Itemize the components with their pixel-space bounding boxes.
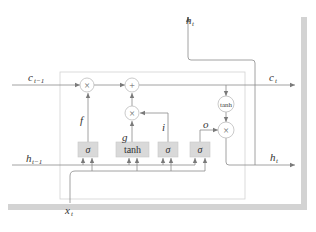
cell-state-line [12,85,295,96]
svg-text:t−1: t−1 [34,77,44,85]
label-h-out-top: h t [186,14,195,28]
svg-text:tanh: tanh [220,101,233,109]
shadow-frame [8,17,307,210]
label-c-prev: c t−1 [28,71,44,85]
output-gate: σ [190,142,210,157]
svg-text:t: t [276,157,279,165]
output-multiply-node: × [218,122,234,138]
cell-tanh-node: tanh [218,96,234,112]
svg-text:x: x [64,204,70,216]
svg-text:t: t [71,210,74,218]
label-g: g [122,131,128,143]
input-gate: σ [158,142,178,157]
svg-text:c: c [269,71,274,83]
multiply-icon: × [223,125,229,136]
label-i: i [162,121,165,133]
label-h-out-right: h t [270,151,279,165]
label-f: f [80,114,85,126]
candidate-gate: tanh [116,142,149,157]
plus-icon: + [129,80,135,91]
label-c-out: c t [269,71,278,85]
forget-multiply-node: × [80,78,94,92]
input-multiply-node: × [125,106,139,120]
svg-text:t: t [275,77,278,85]
label-h-prev: h t−1 [26,152,42,166]
multiply-icon: × [84,80,90,91]
lstm-diagram: × + × tanh × σ tanh σ σ f g i o c t−1 [0,0,316,232]
svg-text:tanh: tanh [124,144,141,155]
svg-text:c: c [28,71,33,83]
multiply-icon: × [129,108,135,119]
svg-text:t−1: t−1 [32,158,42,166]
svg-text:t: t [192,20,195,28]
label-o: o [203,118,209,130]
add-node: + [125,78,139,92]
forget-gate: σ [78,142,98,157]
